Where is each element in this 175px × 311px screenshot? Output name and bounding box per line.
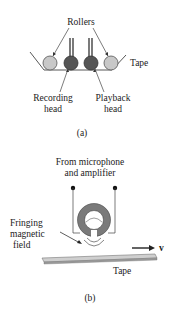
tape-recorder-diagram (0, 0, 175, 311)
left-roller (43, 56, 57, 70)
recording-coil (81, 207, 107, 233)
label-source-line2: and amplifier (50, 168, 130, 178)
right-roller (104, 56, 118, 70)
caption-b: (b) (80, 293, 100, 303)
panel-a-drawing (30, 28, 126, 92)
label-tape-b: Tape (113, 266, 131, 276)
label-recording-head-line2: head (28, 104, 78, 114)
fringing-field (84, 240, 104, 246)
label-source-line1: From microphone (50, 157, 130, 167)
label-rollers: Rollers (64, 17, 98, 27)
label-playback-head-line1: Playback (92, 93, 134, 103)
recording-head (64, 56, 78, 70)
playback-head (84, 56, 98, 70)
panel-b-drawing (42, 186, 157, 264)
label-field-line2: magnetic (10, 229, 45, 239)
label-recording-head-line1: Recording (28, 93, 78, 103)
label-tape-a: Tape (130, 58, 148, 68)
label-playback-head-line2: head (92, 104, 134, 114)
label-velocity: v (159, 243, 164, 253)
label-field-line3: field (13, 240, 30, 250)
label-field-line1: Fringing (10, 218, 43, 228)
caption-a: (a) (72, 128, 92, 138)
